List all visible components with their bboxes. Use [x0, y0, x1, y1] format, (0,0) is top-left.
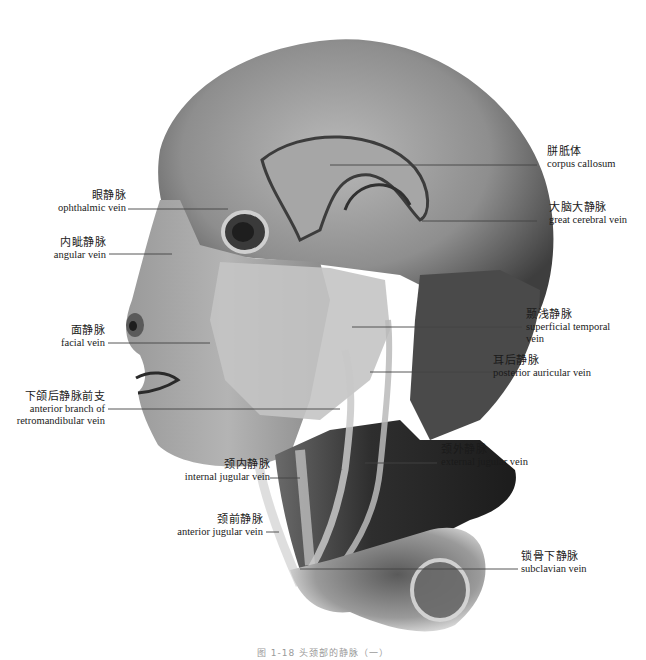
label-zh: 耳后静脉 [493, 354, 591, 367]
label-retromandibular-anterior-branch: 下颌后静脉前支 anterior branch of retromandibul… [17, 390, 105, 427]
label-en: internal jugular vein [185, 471, 270, 483]
label-angular-vein: 内眦静脉 angular vein [54, 236, 106, 261]
label-anterior-jugular-vein: 颈前静脉 anterior jugular vein [177, 513, 263, 538]
label-en-line1: superficial temporal [526, 321, 610, 333]
label-zh: 锁骨下静脉 [521, 550, 587, 563]
label-corpus-callosum: 胼胝体 corpus callosum [547, 145, 616, 170]
label-en: angular vein [54, 249, 106, 261]
label-zh: 内眦静脉 [54, 236, 106, 249]
label-zh: 颈内静脉 [185, 458, 270, 471]
label-en: ophthalmic vein [58, 202, 126, 214]
label-en: subclavian vein [521, 563, 587, 575]
label-great-cerebral-vein: 大脑大静脉 great cerebral vein [549, 201, 627, 226]
label-en: corpus callosum [547, 158, 616, 170]
label-zh: 胼胝体 [547, 145, 616, 158]
label-ophthalmic-vein: 眼静脉 ophthalmic vein [58, 189, 126, 214]
label-zh: 颈前静脉 [177, 513, 263, 526]
label-en-line1: anterior branch of [17, 403, 105, 415]
label-en: posterior auricular vein [493, 367, 591, 379]
label-external-jugular-vein: 颈外静脉 external jugular vein [441, 443, 528, 468]
label-en: anterior jugular vein [177, 526, 263, 538]
label-zh: 下颌后静脉前支 [17, 390, 105, 403]
label-zh: 颞浅静脉 [526, 308, 610, 321]
label-en-line2: vein [526, 333, 610, 345]
label-zh: 眼静脉 [58, 189, 126, 202]
label-zh: 大脑大静脉 [549, 201, 627, 214]
label-posterior-auricular-vein: 耳后静脉 posterior auricular vein [493, 354, 591, 379]
figure-caption: 图 1-18 头颈部的静脉（一） [0, 646, 646, 659]
label-en: external jugular vein [441, 456, 528, 468]
label-subclavian-vein: 锁骨下静脉 subclavian vein [521, 550, 587, 575]
label-zh: 面静脉 [61, 324, 105, 337]
label-en: facial vein [61, 337, 105, 349]
label-zh: 颈外静脉 [441, 443, 528, 456]
label-en-line2: retromandibular vein [17, 415, 105, 427]
label-facial-vein: 面静脉 facial vein [61, 324, 105, 349]
label-internal-jugular-vein: 颈内静脉 internal jugular vein [185, 458, 270, 483]
label-superficial-temporal-vein: 颞浅静脉 superficial temporal vein [526, 308, 610, 345]
label-en: great cerebral vein [549, 214, 627, 226]
